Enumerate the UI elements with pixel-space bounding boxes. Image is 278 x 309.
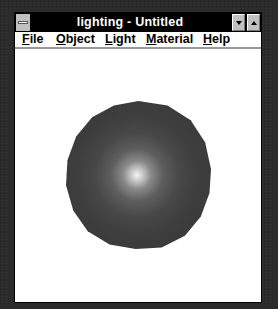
- menu-file-label: ile: [30, 32, 44, 46]
- minimize-button[interactable]: [232, 14, 245, 31]
- title-bar[interactable]: lighting - Untitled: [15, 13, 261, 32]
- menu-light-label: ight: [113, 32, 136, 46]
- app-window: lighting - Untitled File Object Light Ma…: [14, 12, 262, 303]
- lit-sphere: [66, 101, 211, 249]
- render-canvas[interactable]: [15, 49, 261, 302]
- menu-material-mnemonic: M: [146, 32, 156, 46]
- menu-object-mnemonic: O: [56, 32, 66, 46]
- menu-help-label: elp: [212, 32, 230, 46]
- menu-object-label: bject: [66, 32, 95, 46]
- menu-light-mnemonic: L: [105, 32, 113, 46]
- minimize-icon: [236, 21, 242, 25]
- menu-light[interactable]: Light: [105, 32, 136, 47]
- system-menu-icon: [18, 21, 28, 24]
- maximize-button[interactable]: [247, 14, 260, 31]
- menu-object[interactable]: Object: [56, 32, 95, 47]
- menu-bar: File Object Light Material Help: [15, 32, 261, 49]
- menu-material-label: aterial: [156, 32, 193, 46]
- system-menu-button[interactable]: [16, 14, 30, 31]
- window-title: lighting - Untitled: [31, 13, 229, 32]
- maximize-icon: [251, 21, 257, 25]
- menu-material[interactable]: Material: [146, 32, 193, 47]
- menu-file-mnemonic: F: [22, 32, 30, 46]
- menu-help[interactable]: Help: [203, 32, 230, 47]
- menu-help-mnemonic: H: [203, 32, 212, 46]
- menu-file[interactable]: File: [22, 32, 44, 47]
